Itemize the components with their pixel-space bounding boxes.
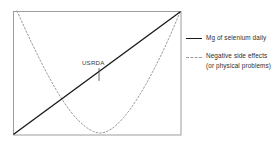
legend-label-line-2: (or physical problems) xyxy=(206,61,278,70)
legend-item-negative-side-effects: Negative side effects (or physical probl… xyxy=(186,51,278,70)
legend-label-line-1: Negative side effects xyxy=(206,51,278,60)
legend-item-label: Mg of selenium daily xyxy=(206,33,278,42)
chart-legend: Mg of selenium daily Negative side effec… xyxy=(186,33,278,79)
legend-item-label: Negative side effects (or physical probl… xyxy=(206,51,278,70)
solid-line-marker-icon xyxy=(186,38,202,39)
chart-figure: USRDA Mg of selenium daily Negative side… xyxy=(0,0,278,145)
legend-item-mg-selenium-daily: Mg of selenium daily xyxy=(186,33,278,42)
legend-label-line-1: Mg of selenium daily xyxy=(206,33,278,42)
usrda-annotation-label: USRDA xyxy=(82,60,104,66)
dashed-line-marker-icon xyxy=(186,57,202,58)
